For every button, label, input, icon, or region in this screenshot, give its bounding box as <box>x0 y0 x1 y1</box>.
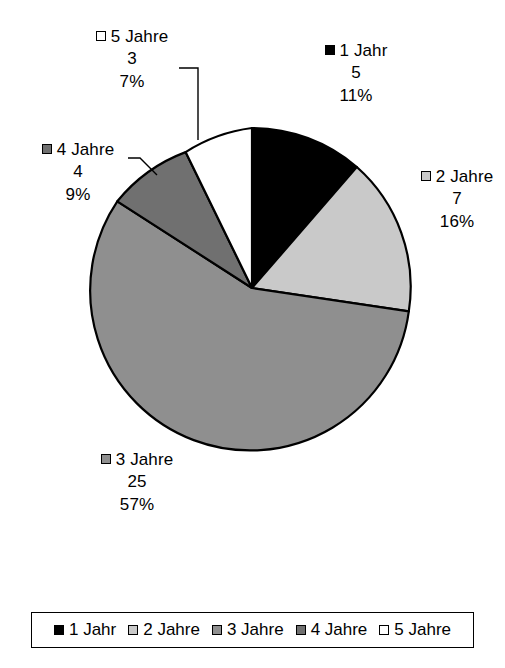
callout-3-jahre-value: 25 <box>62 471 212 493</box>
callout-3-jahre-label: 3 Jahre <box>116 450 173 469</box>
callout-5-jahre-value: 3 <box>62 48 202 70</box>
swatch-2-jahre-icon <box>421 171 431 181</box>
callout-2-jahre-value: 7 <box>402 188 505 210</box>
legend-label-2-jahre: 2 Jahre <box>143 620 200 640</box>
callout-3-jahre-percent: 57% <box>62 494 212 516</box>
legend-swatch-5-jahre-icon <box>379 625 389 635</box>
callout-5-jahre: 5 Jahre 3 7% <box>62 26 202 93</box>
legend-item-4-jahre: 4 Jahre <box>296 620 368 640</box>
callout-5-jahre-label: 5 Jahre <box>111 27 168 46</box>
callout-4-jahre-percent: 9% <box>8 184 148 206</box>
pie-graphic <box>0 0 505 668</box>
pie-chart: 5 Jahre 3 7% 1 Jahr 5 11% 4 Jahre 4 9% 2… <box>0 0 505 668</box>
legend-swatch-4-jahre-icon <box>296 625 306 635</box>
legend-label-5-jahre: 5 Jahre <box>394 620 451 640</box>
callout-2-jahre-label: 2 Jahre <box>436 167 493 186</box>
legend-item-5-jahre: 5 Jahre <box>379 620 451 640</box>
legend-swatch-1-jahr-icon <box>54 625 64 635</box>
legend-label-3-jahre: 3 Jahre <box>227 620 284 640</box>
legend-swatch-2-jahre-icon <box>128 625 138 635</box>
callout-2-jahre-header: 2 Jahre <box>402 166 505 188</box>
swatch-1-jahr-icon <box>325 45 335 55</box>
legend-item-1-jahr: 1 Jahr <box>54 620 116 640</box>
swatch-5-jahre-icon <box>96 31 106 41</box>
callout-1-jahr-percent: 11% <box>286 85 426 107</box>
callout-4-jahre-value: 4 <box>8 161 148 183</box>
swatch-4-jahre-icon <box>42 144 52 154</box>
swatch-3-jahre-icon <box>101 454 111 464</box>
callout-1-jahr-header: 1 Jahr <box>286 40 426 62</box>
callout-1-jahr: 1 Jahr 5 11% <box>286 40 426 107</box>
legend-item-3-jahre: 3 Jahre <box>212 620 284 640</box>
callout-4-jahre: 4 Jahre 4 9% <box>8 139 148 206</box>
callout-1-jahr-value: 5 <box>286 62 426 84</box>
callout-2-jahre-percent: 16% <box>402 211 505 233</box>
callout-4-jahre-header: 4 Jahre <box>8 139 148 161</box>
legend: 1 Jahr 2 Jahre 3 Jahre 4 Jahre 5 Jahre <box>31 612 474 648</box>
callout-3-jahre: 3 Jahre 25 57% <box>62 449 212 516</box>
legend-label-1-jahr: 1 Jahr <box>69 620 116 640</box>
callout-2-jahre: 2 Jahre 7 16% <box>402 166 505 233</box>
callout-1-jahr-label: 1 Jahr <box>340 41 388 60</box>
callout-3-jahre-header: 3 Jahre <box>62 449 212 471</box>
legend-item-2-jahre: 2 Jahre <box>128 620 200 640</box>
legend-label-4-jahre: 4 Jahre <box>311 620 368 640</box>
legend-swatch-3-jahre-icon <box>212 625 222 635</box>
callout-5-jahre-header: 5 Jahre <box>62 26 202 48</box>
callout-5-jahre-percent: 7% <box>62 71 202 93</box>
callout-4-jahre-label: 4 Jahre <box>57 140 114 159</box>
